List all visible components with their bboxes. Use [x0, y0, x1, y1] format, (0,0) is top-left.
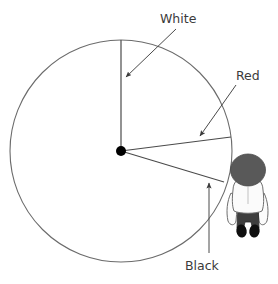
label-red: Red — [236, 68, 260, 83]
label-white: White — [160, 11, 197, 26]
red-leader-line — [200, 85, 236, 136]
radius-red-upper — [121, 137, 231, 151]
label-black: Black — [185, 258, 220, 273]
white-leader-line — [126, 29, 176, 77]
circle-sector-diagram: White Red Black — [0, 0, 278, 284]
sector-radii — [121, 40, 231, 182]
person-head — [231, 154, 266, 186]
person-figure — [227, 154, 268, 238]
center-dot — [116, 146, 126, 156]
leader-lines — [126, 29, 236, 253]
radius-red-lower — [121, 151, 224, 182]
diagram-canvas: White Red Black — [0, 0, 278, 284]
